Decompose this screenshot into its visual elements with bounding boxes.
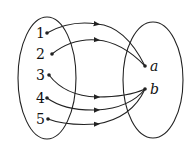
domain-label-5: 5	[36, 111, 45, 127]
domain-label-2: 2	[36, 46, 45, 62]
arrow-3-to-b	[49, 75, 97, 97]
codomain-label-b: b	[150, 81, 159, 97]
domain-label-3: 3	[36, 67, 45, 83]
arrow-4-to-b	[47, 98, 97, 110]
codomain-ellipse	[123, 22, 183, 138]
arrow-1-to-a	[47, 23, 97, 33]
arrow-2-to-a	[52, 40, 97, 54]
diagram-canvas: 1 2 3 4 5 a b	[0, 0, 185, 154]
arrow-5-to-b	[48, 119, 97, 124]
codomain-label-a: a	[150, 58, 158, 74]
function-mapping-diagram: 1 2 3 4 5 a b	[0, 0, 185, 154]
domain-ellipse	[18, 17, 76, 139]
domain-label-4: 4	[36, 90, 45, 106]
mapping-arrows	[47, 23, 145, 124]
domain-label-1: 1	[36, 25, 45, 41]
